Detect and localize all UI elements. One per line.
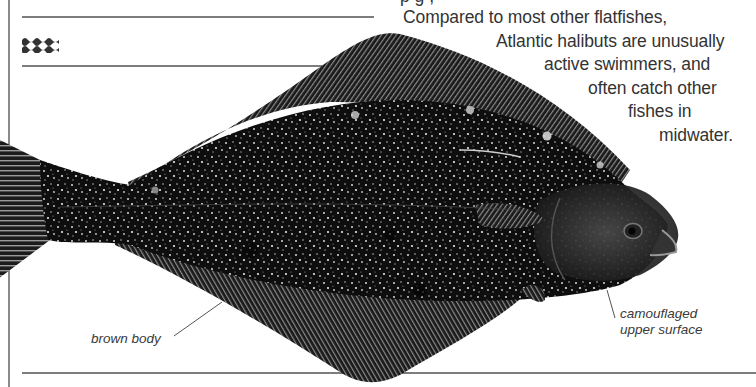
- label-camouflaged-line2: upper surface: [620, 322, 703, 338]
- label-camouflaged-line1: camouflaged: [620, 306, 697, 322]
- description-line-2: Atlantic halibuts are unusually: [496, 30, 724, 54]
- description-line-6: midwater.: [659, 124, 733, 148]
- description-line-1: Compared to most other flatfishes,: [403, 6, 667, 30]
- description-line-3: active swimmers, and: [544, 53, 710, 77]
- description-line-4: often catch other: [588, 77, 717, 101]
- description-line-5: fishes in: [628, 100, 691, 124]
- label-brown-body: brown body: [91, 331, 161, 347]
